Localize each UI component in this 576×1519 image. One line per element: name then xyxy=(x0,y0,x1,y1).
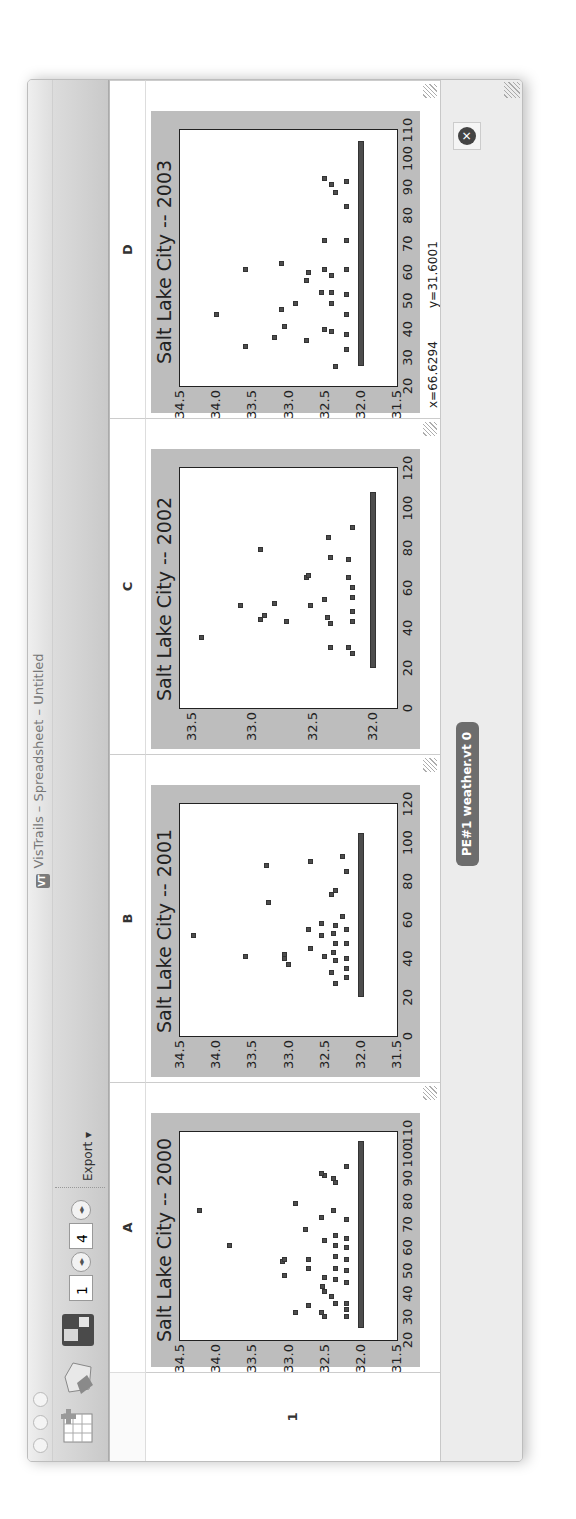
rows-stepper[interactable]: ◂▸ xyxy=(71,1252,91,1272)
data-point xyxy=(344,941,349,946)
data-point xyxy=(328,556,333,561)
toolbar: 1 ◂▸ 4 ◂▸ Export ▾ xyxy=(53,80,109,1461)
sheet-corner xyxy=(110,1372,146,1461)
data-point xyxy=(319,1171,324,1176)
cell-resize-handle[interactable] xyxy=(423,1086,437,1100)
cols-stepper[interactable]: ◂▸ xyxy=(71,1200,91,1220)
data-point xyxy=(322,1275,327,1280)
close-icon: ✕ xyxy=(458,127,476,145)
x-tick-label: 60 xyxy=(400,257,415,287)
data-point xyxy=(238,604,243,609)
y-tick-label: 33.5 xyxy=(244,390,259,426)
toolbar-separator xyxy=(55,1187,105,1188)
plot-title: Salt Lake City -- 2001 xyxy=(153,785,175,1077)
y-tick-label: 32.5 xyxy=(317,1040,332,1076)
x-tick-label: 80 xyxy=(400,200,415,230)
y-tick-label: 32.0 xyxy=(353,1040,368,1076)
grid-plus-icon xyxy=(59,1407,97,1445)
data-point xyxy=(329,329,334,334)
data-point xyxy=(308,947,313,952)
data-point xyxy=(325,616,330,621)
data-point xyxy=(282,1273,287,1278)
data-point xyxy=(331,950,336,955)
data-point xyxy=(344,1236,349,1241)
data-point xyxy=(350,526,355,531)
x-tick-label: 20 xyxy=(400,371,415,401)
data-point xyxy=(326,536,331,541)
data-point xyxy=(333,1301,338,1306)
y-tick-label: 32.5 xyxy=(305,712,320,748)
data-point xyxy=(293,1310,298,1315)
y-tick-label: 34.0 xyxy=(208,1344,223,1380)
data-point xyxy=(333,941,338,946)
export-menu-button[interactable]: Export ▾ xyxy=(81,1132,95,1181)
y-tick-label: 33.0 xyxy=(244,712,259,748)
x-tick-label: 40 xyxy=(400,944,415,974)
data-point xyxy=(344,1301,349,1306)
y-tick-label: 34.0 xyxy=(208,1040,223,1076)
cursor-y-readout: y=31.6001 xyxy=(426,241,440,308)
data-point xyxy=(319,1215,324,1220)
pipeline-tag[interactable]: PE#1 weather.vt 0 xyxy=(456,722,479,866)
data-point xyxy=(191,933,196,938)
data-point xyxy=(346,576,351,581)
title-bar[interactable]: VTVisTrails – Spreadsheet – Untitled xyxy=(28,80,53,1461)
data-point xyxy=(282,1257,287,1262)
rows-field[interactable]: 1 xyxy=(69,1275,93,1301)
data-point xyxy=(319,290,324,295)
cell-d1[interactable]: Salt Lake City -- 2003 31.532.032.533.03… xyxy=(146,80,440,418)
data-point xyxy=(272,335,277,340)
save-button[interactable] xyxy=(59,1311,97,1349)
column-header-a[interactable]: A xyxy=(110,1082,146,1372)
data-point xyxy=(344,927,349,932)
data-point xyxy=(329,1294,334,1299)
data-point xyxy=(344,1307,349,1312)
data-point xyxy=(306,927,311,932)
window-resize-handle[interactable] xyxy=(504,82,520,98)
plot-axes: 31.532.032.533.033.534.034.5020406080100… xyxy=(179,803,398,1037)
cell-a1[interactable]: Salt Lake City -- 2000 31.532.032.533.03… xyxy=(146,1082,440,1372)
data-point xyxy=(319,1310,324,1315)
data-point xyxy=(333,1277,338,1282)
cell-resize-handle[interactable] xyxy=(423,84,437,98)
cell-resize-handle[interactable] xyxy=(423,422,437,436)
cell-c1[interactable]: Salt Lake City -- 2002 32.032.533.033.50… xyxy=(146,418,440,754)
data-point xyxy=(329,970,334,975)
rotated-stage: VTVisTrails – Spreadsheet – Untitled xyxy=(0,0,576,1519)
data-point xyxy=(333,1254,338,1259)
column-header-d[interactable]: D xyxy=(110,80,146,418)
y-tick-label: 33.5 xyxy=(184,712,199,748)
plot-axes: 31.532.032.533.033.534.034.5203040506070… xyxy=(179,129,398,387)
data-point xyxy=(306,574,311,579)
data-point xyxy=(306,270,311,275)
data-point xyxy=(322,1238,327,1243)
data-point xyxy=(350,620,355,625)
data-point xyxy=(304,278,309,283)
dense-data-band xyxy=(358,141,364,366)
data-point xyxy=(282,952,287,957)
plot-title: Salt Lake City -- 2003 xyxy=(153,111,175,413)
data-point xyxy=(322,176,327,181)
data-point xyxy=(308,860,313,865)
spreadsheet-window: VTVisTrails – Spreadsheet – Untitled xyxy=(27,79,523,1462)
new-sheet-button[interactable] xyxy=(59,1407,97,1445)
close-sheet-button[interactable]: ✕ xyxy=(453,122,481,150)
data-point xyxy=(350,610,355,615)
cols-field[interactable]: 4 xyxy=(69,1223,93,1249)
data-point xyxy=(340,854,345,859)
column-header-c[interactable]: C xyxy=(110,418,146,754)
data-point xyxy=(344,1217,349,1222)
data-point xyxy=(306,1257,311,1262)
cell-b1[interactable]: Salt Lake City -- 2001 31.532.032.533.03… xyxy=(146,754,440,1082)
data-point xyxy=(350,586,355,591)
plot-axes: 31.532.032.533.033.534.034.5203040506070… xyxy=(179,1131,398,1341)
y-tick-label: 32.0 xyxy=(353,1344,368,1380)
plot-axes: 32.032.533.033.5020406080100120 xyxy=(179,467,398,709)
data-point xyxy=(319,933,324,938)
data-point xyxy=(293,301,298,306)
column-header-b[interactable]: B xyxy=(110,754,146,1082)
row-header-1[interactable]: 1 xyxy=(146,1372,440,1461)
open-button[interactable] xyxy=(59,1359,97,1397)
data-point xyxy=(197,1208,202,1213)
cell-resize-handle[interactable] xyxy=(423,758,437,772)
